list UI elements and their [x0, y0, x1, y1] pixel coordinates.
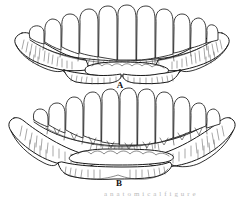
- panel-a-label: A: [117, 80, 124, 90]
- tooth: [84, 92, 101, 141]
- panel-b-drawing: [9, 88, 235, 179]
- tooth: [99, 6, 117, 60]
- tooth: [174, 97, 190, 138]
- tooth: [120, 88, 137, 145]
- tooth: [80, 9, 98, 57]
- figure-root: A: [0, 0, 244, 198]
- tooth: [118, 5, 136, 60]
- tooth: [66, 97, 83, 138]
- tooth: [174, 14, 190, 53]
- tooth: [137, 6, 155, 60]
- tooth: [102, 89, 119, 144]
- tooth: [191, 18, 206, 48]
- anatomical-line-drawing: A: [0, 0, 244, 198]
- tooth: [33, 109, 48, 127]
- panel-a-drawing: [15, 5, 229, 84]
- figure-caption-partial: a n a t o m i c a l f i g u r e: [104, 190, 234, 198]
- tooth: [156, 92, 173, 143]
- panel-b-label: B: [116, 178, 122, 188]
- tooth: [191, 103, 206, 132]
- tooth: [138, 89, 155, 145]
- tooth: [49, 103, 65, 133]
- tooth: [207, 25, 218, 43]
- tooth: [62, 14, 79, 54]
- tooth: [156, 9, 173, 58]
